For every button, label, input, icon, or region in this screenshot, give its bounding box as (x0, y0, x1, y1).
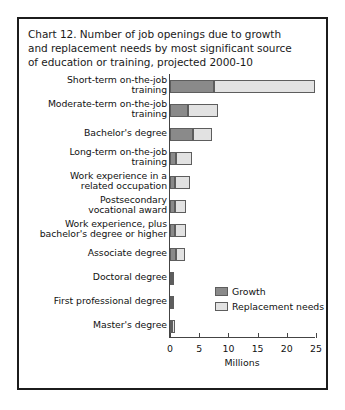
category-label: Postsecondaryvocational award (21, 195, 167, 216)
bar-segment-replacement-needs (172, 320, 175, 333)
bar-segment-replacement-needs (175, 176, 190, 189)
category-label-line: vocational award (21, 205, 167, 216)
bar-segment-replacement-needs (176, 248, 184, 261)
category-label: Work experience in arelated occupation (21, 171, 167, 192)
chart-title-line-3: of education or training, projected 2000… (28, 55, 318, 69)
x-axis-tick-label: 0 (167, 343, 173, 354)
bar-segment-replacement-needs (176, 152, 192, 165)
x-axis-tick-label: 15 (252, 343, 264, 354)
category-label-line: related occupation (21, 181, 167, 192)
chart-legend: Growth Replacement needs (215, 286, 324, 316)
plot-area: Short-term on-the-jobtrainingModerate-te… (19, 74, 330, 374)
category-label-line: Master's degree (21, 320, 167, 331)
category-label-line: training (21, 109, 167, 120)
chart-title-line-2: and replacement needs by most significan… (28, 41, 318, 55)
x-axis-tick (228, 333, 229, 338)
category-axis-labels: Short-term on-the-jobtrainingModerate-te… (19, 74, 167, 338)
category-label-line: Associate degree (21, 248, 167, 259)
bar-segment-replacement-needs (188, 104, 218, 117)
chart-figure: Chart 12. Number of job openings due to … (17, 17, 328, 390)
category-label: Bachelor's degree (21, 128, 167, 139)
category-label-line: training (21, 157, 167, 168)
legend-swatch-replacement-icon (215, 302, 228, 311)
bar-segment-growth (170, 128, 193, 141)
legend-swatch-growth-icon (215, 287, 228, 296)
category-label: Long-term on-the-jobtraining (21, 147, 167, 168)
x-axis-tick-label: 5 (196, 343, 202, 354)
category-label-line: bachelor's degree or higher (21, 229, 167, 240)
category-label: Short-term on-the-jobtraining (21, 75, 167, 96)
x-axis-tick (258, 333, 259, 338)
bar-segment-replacement-needs (172, 296, 174, 309)
x-axis-tick (287, 333, 288, 338)
legend-item-replacement-needs: Replacement needs (215, 301, 324, 312)
category-label-line: Bachelor's degree (21, 128, 167, 139)
bar-segment-replacement-needs (193, 128, 212, 141)
x-axis-tick-label: 20 (281, 343, 293, 354)
legend-label-growth: Growth (232, 286, 266, 297)
category-label: Work experience, plusbachelor's degree o… (21, 219, 167, 240)
category-label: Associate degree (21, 248, 167, 259)
category-label: Moderate-term on-the-jobtraining (21, 99, 167, 120)
category-label-line: Doctoral degree (21, 272, 167, 283)
x-axis-title: Millions (169, 357, 315, 368)
bar-segment-growth (170, 104, 188, 117)
category-label-line: training (21, 85, 167, 96)
bar-segment-replacement-needs (175, 200, 186, 213)
legend-item-growth: Growth (215, 286, 324, 297)
bar-segment-growth (170, 80, 214, 93)
category-label: First professional degree (21, 296, 167, 307)
x-axis-tick (199, 333, 200, 338)
category-label: Master's degree (21, 320, 167, 331)
figure-inner: Chart 12. Number of job openings due to … (19, 19, 326, 388)
category-label: Doctoral degree (21, 272, 167, 283)
category-label-line: First professional degree (21, 296, 167, 307)
bar-segment-replacement-needs (175, 224, 187, 237)
chart-title-line-1: Chart 12. Number of job openings due to … (28, 27, 318, 41)
chart-title: Chart 12. Number of job openings due to … (28, 27, 318, 70)
x-axis-tick-label: 25 (310, 343, 322, 354)
legend-label-replacement-needs: Replacement needs (232, 301, 324, 312)
x-axis-tick-label: 10 (222, 343, 234, 354)
x-axis-tick (316, 333, 317, 338)
bar-segment-replacement-needs (214, 80, 315, 93)
x-axis-tick (170, 333, 171, 338)
bar-segment-replacement-needs (172, 272, 174, 285)
